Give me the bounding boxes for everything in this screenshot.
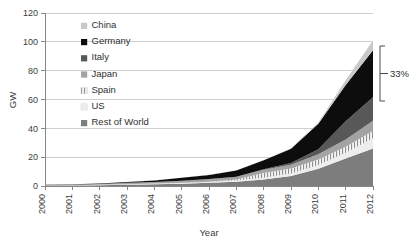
legend-label-italy: Italy [92, 51, 110, 62]
legend-swatch-us [81, 104, 87, 110]
legend-label-china: China [92, 19, 118, 30]
y-tick-label: 20 [28, 152, 38, 162]
legend-label-spain: Spain [92, 84, 116, 95]
chart-legend: ChinaGermanyItalyJapanSpainUSRest of Wor… [81, 19, 149, 127]
y-tick-label: 80 [28, 66, 38, 76]
y-axis-title: GW [7, 92, 18, 108]
y-tick-label: 0 [33, 181, 38, 191]
legend-label-us: US [92, 100, 105, 111]
legend-swatch-italy [81, 55, 87, 61]
x-axis-ticks: 2000200120022003200420052006200720082009… [37, 186, 375, 214]
y-tick-label: 120 [23, 8, 38, 18]
percent-annotation: 33% [380, 46, 410, 101]
chart-container: 020406080100120 200020012002200320042005… [0, 0, 417, 241]
y-tick-label: 60 [28, 95, 38, 105]
x-tick-label: 2008 [256, 194, 266, 214]
x-tick-label: 2012 [365, 194, 375, 214]
legend-swatch-rest-of-world [81, 120, 87, 126]
x-tick-label: 2011 [338, 194, 348, 213]
stacked-area-chart: 020406080100120 200020012002200320042005… [0, 0, 417, 241]
x-tick-label: 2005 [174, 194, 184, 214]
x-tick-label: 2000 [37, 194, 47, 214]
x-tick-label: 2009 [283, 194, 293, 214]
annotation-label: 33% [390, 68, 410, 79]
y-tick-label: 40 [28, 124, 38, 134]
x-tick-label: 2003 [119, 194, 129, 214]
x-tick-label: 2006 [201, 194, 211, 214]
legend-swatch-china [81, 23, 87, 29]
x-tick-label: 2010 [310, 194, 320, 214]
legend-label-rest-of-world: Rest of World [92, 116, 149, 127]
legend-swatch-japan [81, 71, 87, 77]
y-tick-label: 100 [23, 37, 38, 47]
x-tick-label: 2007 [228, 194, 238, 214]
x-tick-label: 2002 [92, 194, 102, 214]
legend-label-germany: Germany [92, 35, 131, 46]
x-tick-label: 2001 [64, 194, 74, 214]
x-tick-label: 2004 [146, 194, 156, 214]
legend-swatch-germany [81, 39, 87, 45]
x-axis-title: Year [199, 227, 218, 238]
legend-label-japan: Japan [92, 68, 118, 79]
legend-swatch-spain [81, 88, 87, 94]
y-axis-ticks: 020406080100120 [23, 8, 45, 191]
